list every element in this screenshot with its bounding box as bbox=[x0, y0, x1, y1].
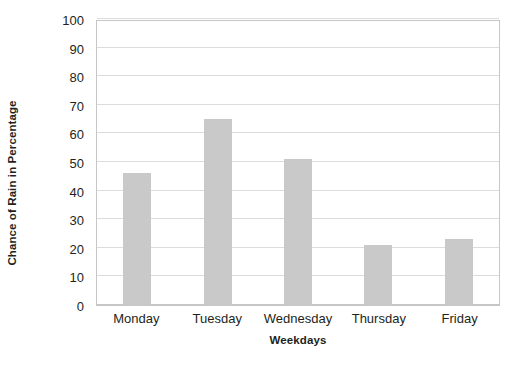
y-tick-label: 10 bbox=[70, 271, 84, 284]
y-tick-label: 70 bbox=[70, 99, 84, 112]
bar[interactable] bbox=[364, 245, 392, 305]
x-tick-label: Thursday bbox=[338, 309, 419, 331]
y-tick-label: 20 bbox=[70, 242, 84, 255]
gridline bbox=[97, 18, 499, 19]
x-axis-title: Weekdays bbox=[96, 334, 500, 346]
y-tick-label: 40 bbox=[70, 185, 84, 198]
y-tick-label: 50 bbox=[70, 157, 84, 170]
bar[interactable] bbox=[284, 159, 312, 305]
bar-series bbox=[97, 21, 499, 305]
bar-slot bbox=[97, 21, 177, 305]
bar-slot bbox=[258, 21, 338, 305]
bar-slot bbox=[419, 21, 499, 305]
x-tick-label: Monday bbox=[96, 309, 177, 331]
x-tick-label: Wednesday bbox=[258, 309, 339, 331]
y-tick-label: 90 bbox=[70, 42, 84, 55]
y-axis-title: Chance of Rain in Percentage bbox=[0, 0, 46, 366]
y-axis-tick-labels: 0102030405060708090100 bbox=[46, 20, 90, 306]
bar[interactable] bbox=[204, 119, 232, 305]
x-axis-tick-labels: MondayTuesdayWednesdayThursdayFriday bbox=[96, 309, 500, 331]
y-tick-label: 60 bbox=[70, 128, 84, 141]
bar-slot bbox=[338, 21, 418, 305]
y-tick-label: 100 bbox=[62, 14, 84, 27]
x-tick-label: Friday bbox=[419, 309, 500, 331]
x-tick-label: Tuesday bbox=[177, 309, 258, 331]
bar[interactable] bbox=[445, 239, 473, 305]
bar-chart-figure: Chance of Rain in Percentage 01020304050… bbox=[0, 0, 522, 366]
bar-slot bbox=[177, 21, 257, 305]
bar[interactable] bbox=[123, 173, 151, 305]
plot-area bbox=[96, 20, 500, 306]
y-tick-label: 30 bbox=[70, 214, 84, 227]
y-tick-label: 80 bbox=[70, 71, 84, 84]
y-tick-label: 0 bbox=[77, 300, 84, 313]
